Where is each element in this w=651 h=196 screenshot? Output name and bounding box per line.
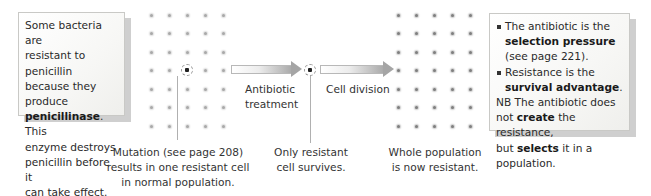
bacterium-dot <box>433 69 436 72</box>
bacterium-dot <box>451 14 454 17</box>
bacterium-dot <box>168 88 171 91</box>
bacterium-dot <box>451 125 454 128</box>
selection-pressure-info-box: The antibiotic is the selection pressure… <box>489 13 630 131</box>
bacterium-dot <box>469 32 472 35</box>
stage1-caption: Mutation (see page 208) results in one r… <box>103 145 253 190</box>
bacterium-dot <box>469 88 472 91</box>
nb-line: but selects it in a population. <box>496 141 625 171</box>
antibiotic-treatment-arrow <box>231 61 302 78</box>
bacterium-dot <box>222 88 225 91</box>
bacterium-dot <box>433 32 436 35</box>
bacterium-dot <box>433 14 436 17</box>
bacterium-dot <box>204 51 207 54</box>
bacterium-dot <box>204 32 207 35</box>
bacterium-dot <box>204 125 207 128</box>
bacterium-dot <box>150 51 153 54</box>
bacterium-dot <box>168 125 171 128</box>
bacterium-dot <box>150 32 153 35</box>
bacterium-dot <box>433 106 436 109</box>
bacterium-dot <box>204 88 207 91</box>
stage3-caption: Whole population is now resistant. <box>380 145 490 175</box>
bacterium-dot <box>451 69 454 72</box>
bacterium-dot <box>469 106 472 109</box>
bacterium-dot <box>186 125 189 128</box>
info-line: penicillinase. This <box>25 109 119 139</box>
bacterium-dot <box>204 69 207 72</box>
info-line: Some bacteria are <box>25 18 119 48</box>
bacterium-dot <box>415 32 418 35</box>
penicillinase-term: penicillinase <box>25 110 100 122</box>
bacterium-dot <box>186 106 189 109</box>
bacterium-dot <box>150 106 153 109</box>
bacterium-dot <box>451 106 454 109</box>
survival-advantage-term: survival advantage <box>505 81 619 93</box>
bacterium-dot <box>222 32 225 35</box>
leader-line-stage1 <box>177 76 178 140</box>
bacterium-dot <box>469 51 472 54</box>
bacterium-dot <box>150 14 153 17</box>
bacterium-dot <box>451 88 454 91</box>
bacterium-dot <box>150 88 153 91</box>
bacterium-dot <box>451 32 454 35</box>
bacterium-dot <box>415 88 418 91</box>
bacterium-dot <box>168 14 171 17</box>
bacterium-dot <box>222 69 225 72</box>
bacterium-dot <box>222 14 225 17</box>
bacterium-dot <box>186 88 189 91</box>
bacterium-dot <box>222 51 225 54</box>
bacterium-dot <box>168 69 171 72</box>
nb-line: NB The antibiotic does <box>496 95 625 110</box>
bacterium-dot <box>397 69 400 72</box>
bacterium-dot <box>150 125 153 128</box>
bacterium-dot <box>415 106 418 109</box>
cell-division-arrow <box>320 61 394 78</box>
bacterium-dot <box>168 32 171 35</box>
info-line: because they produce <box>25 79 119 109</box>
bacterium-dot <box>168 51 171 54</box>
bacterium-dot <box>397 51 400 54</box>
bacterium-dot <box>415 14 418 17</box>
bacterium-dot <box>168 106 171 109</box>
bacterium-dot <box>469 14 472 17</box>
bacterium-dot <box>186 32 189 35</box>
bacterium-dot <box>397 32 400 35</box>
info-line: resistant to penicillin <box>25 48 119 78</box>
bacterium-dot <box>397 14 400 17</box>
bacterium-dot <box>451 51 454 54</box>
bacterium-dot <box>415 51 418 54</box>
bacterium-dot <box>222 106 225 109</box>
bacterium-dot <box>204 14 207 17</box>
bacterium-dot <box>433 51 436 54</box>
resistant-cell-icon <box>180 63 194 77</box>
antibiotic-treatment-label: Antibiotic treatment <box>245 82 298 111</box>
bacterium-dot <box>469 125 472 128</box>
bacterium-dot <box>433 88 436 91</box>
bacterium-dot <box>222 125 225 128</box>
bacterium-dot <box>186 14 189 17</box>
bacterium-dot <box>415 69 418 72</box>
nb-line: not create the resistance, <box>496 110 625 140</box>
bacterium-dot <box>186 51 189 54</box>
stage2-caption: Only resistant cell survives. <box>262 145 360 175</box>
bacterium-dot <box>397 88 400 91</box>
bacterium-dot <box>397 125 400 128</box>
leader-line-stage2 <box>310 76 311 143</box>
bacterium-dot <box>204 106 207 109</box>
cell-division-label: Cell division <box>326 82 390 97</box>
bacterium-dot <box>415 125 418 128</box>
penicillinase-info-box: Some bacteria are resistant to penicilli… <box>18 12 125 116</box>
bacterium-dot <box>397 106 400 109</box>
bacterium-dot <box>469 69 472 72</box>
bacterium-dot <box>433 125 436 128</box>
bacterium-dot <box>150 69 153 72</box>
surviving-resistant-cell-icon <box>303 63 317 77</box>
bullet-item: Resistance is the survival advantage. <box>496 65 625 95</box>
selection-pressure-term: selection pressure <box>505 35 615 47</box>
bullet-item: The antibiotic is the selection pressure… <box>496 19 625 65</box>
